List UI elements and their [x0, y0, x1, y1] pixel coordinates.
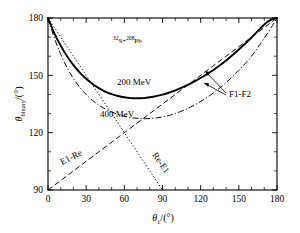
- label-400mev: 400 MeV: [100, 109, 135, 119]
- label-ree1: Re-E1: [150, 150, 171, 175]
- svg-text:32S+208Pb: 32S+208Pb: [113, 35, 142, 45]
- y-tick-label: 90: [34, 185, 44, 195]
- x-tick-label: 150: [232, 194, 247, 204]
- x-tick-label: 180: [270, 194, 285, 204]
- system-label: 32S+208Pb: [113, 35, 142, 45]
- f1f2-arrowhead-lower: [204, 83, 209, 87]
- x-tick-label: 60: [120, 194, 130, 204]
- curve-400mev: [48, 18, 277, 119]
- system-label-main: S+: [118, 37, 126, 45]
- svg-text:θbinary/(°): θbinary/(°): [13, 87, 26, 122]
- y-tick-label: 120: [29, 128, 44, 138]
- x-tick-label: 120: [194, 194, 209, 204]
- system-label-tail: Pb: [134, 37, 142, 45]
- x-axis-title: θ1/(°): [152, 212, 174, 225]
- y-axis-tick-labels: 90120150180: [29, 13, 44, 195]
- y-tick-label: 180: [29, 13, 44, 23]
- x-axis-tick-labels: 0306090120150180: [46, 194, 285, 204]
- x-tick-label: 90: [158, 194, 168, 204]
- y-axis-title-unit: /(°): [13, 87, 25, 100]
- x-tick-label: 0: [46, 194, 51, 204]
- y-axis-title-subscript: binary: [19, 99, 26, 116]
- y-tick-label: 150: [29, 71, 44, 81]
- y-axis-title: θbinary/(°): [13, 87, 26, 122]
- x-axis-title-unit: /(°): [160, 212, 173, 224]
- figure-container: 0306090120150180 90120150180 32S+208Pb 2…: [0, 0, 300, 233]
- label-200mev: 200 MeV: [117, 77, 152, 87]
- x-tick-label: 30: [81, 194, 91, 204]
- scatter-plot-svg: 0306090120150180 90120150180 32S+208Pb 2…: [0, 0, 300, 233]
- curve-200mev: [48, 18, 277, 98]
- svg-text:θ1/(°): θ1/(°): [152, 212, 174, 225]
- label-f1f2: F1-F2: [229, 89, 251, 99]
- label-e1re: E1-Re: [58, 148, 83, 167]
